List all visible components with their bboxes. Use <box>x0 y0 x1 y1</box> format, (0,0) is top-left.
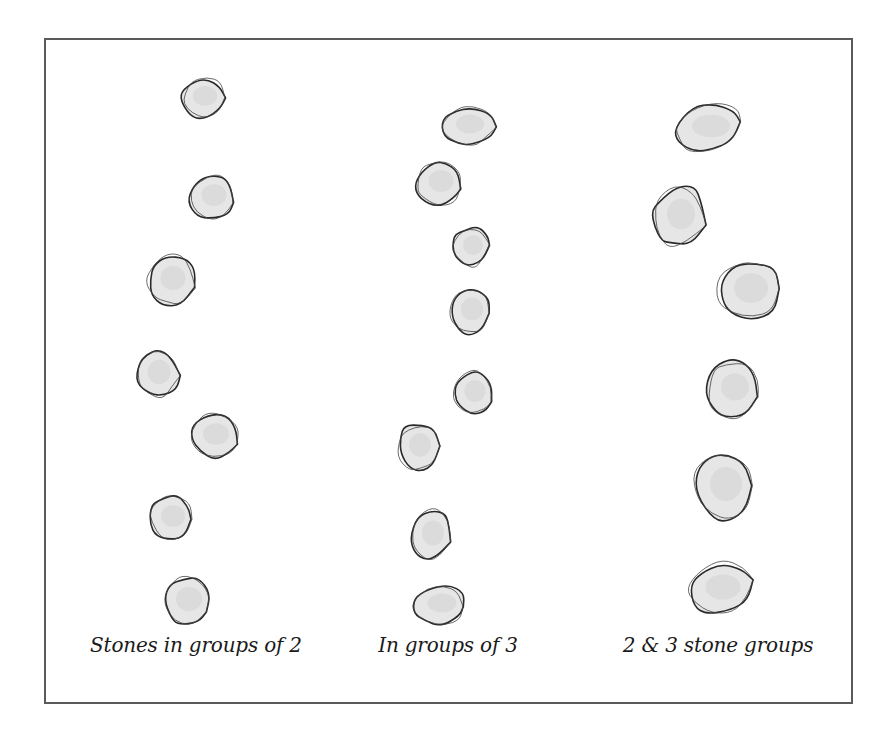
stone-icon <box>416 162 461 205</box>
stone-icon <box>165 576 209 624</box>
caption-2-and-3-stone-groups: 2 & 3 stone groups <box>623 633 814 657</box>
stone-icon <box>688 561 753 613</box>
stone-icon <box>411 509 450 560</box>
stone-icon <box>191 413 238 458</box>
stone-icon <box>676 104 741 152</box>
stone-icon <box>706 360 758 419</box>
stone-icon <box>150 496 192 540</box>
stone-icon <box>450 290 489 335</box>
stone-column-groups-of-2-and-3 <box>653 104 780 613</box>
stone-icon <box>442 107 496 146</box>
stone-icon <box>453 227 490 267</box>
stone-icon <box>453 370 491 413</box>
stone-icon <box>181 78 226 118</box>
caption-groups-of-2: Stones in groups of 2 <box>90 633 302 657</box>
stone-icon <box>147 254 196 306</box>
stone-column-groups-of-3 <box>398 107 496 625</box>
stone-layout-diagram <box>0 0 888 734</box>
stone-icon <box>189 175 234 219</box>
stone-icon <box>717 263 779 319</box>
stone-icon <box>137 351 180 398</box>
caption-groups-of-3: In groups of 3 <box>378 633 518 657</box>
stone-column-groups-of-2 <box>137 78 238 624</box>
stone-icon <box>653 186 707 246</box>
stone-icon <box>694 455 752 521</box>
stone-icon <box>413 586 464 625</box>
stone-icon <box>398 425 440 470</box>
